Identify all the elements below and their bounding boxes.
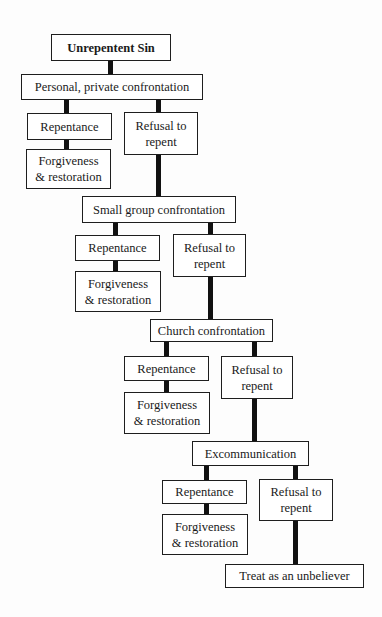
church-discipline-flowchart: Unrepentent Sin Personal, private confro…: [0, 0, 382, 617]
node-repentance-3: Repentance: [124, 356, 209, 381]
connector-step1-repentance: [64, 99, 69, 113]
connector-root-step1: [108, 60, 113, 74]
node-refusal-4: Refusal to repent: [259, 479, 333, 521]
node-treat-as-unbeliever: Treat as an unbeliever: [225, 564, 364, 588]
node-repentance-1: Repentance: [27, 113, 112, 140]
forgiveness-2-line2: & restoration: [85, 292, 151, 308]
connector-refusal2-step3: [208, 276, 213, 319]
connector-step3-repentance: [164, 341, 169, 356]
node-forgiveness-2: Forgiveness & restoration: [75, 271, 161, 312]
node-refusal-2: Refusal to repent: [173, 234, 246, 277]
connector-repentance2-outcome: [113, 260, 118, 271]
refusal-2-line2: repent: [194, 256, 225, 272]
node-forgiveness-1: Forgiveness & restoration: [26, 149, 111, 189]
refusal-3-line2: repent: [241, 378, 272, 394]
refusal-2-line1: Refusal to: [184, 240, 235, 256]
connector-step4-repentance: [204, 465, 209, 480]
connector-repentance1-outcome: [64, 139, 69, 149]
node-forgiveness-4: Forgiveness & restoration: [162, 514, 248, 555]
node-church-confrontation: Church confrontation: [150, 319, 273, 342]
connector-repentance4-outcome: [204, 503, 209, 514]
node-repentance-2: Repentance: [75, 235, 160, 261]
forgiveness-2-line1: Forgiveness: [88, 276, 148, 292]
connector-refusal4-final: [293, 520, 298, 564]
refusal-3-line1: Refusal to: [231, 362, 282, 378]
connector-step2-refusal: [208, 222, 213, 234]
forgiveness-1-line2: & restoration: [35, 169, 101, 185]
node-personal-confrontation: Personal, private confrontation: [21, 74, 203, 100]
refusal-1-line1: Refusal to: [135, 118, 186, 134]
connector-refusal3-step4: [252, 398, 257, 441]
node-forgiveness-3: Forgiveness & restoration: [124, 392, 210, 434]
connector-step2-repentance: [113, 222, 118, 235]
connector-repentance3-outcome: [164, 380, 169, 392]
connector-refusal1-step2: [156, 154, 161, 196]
node-unrepentent-sin: Unrepentent Sin: [51, 34, 171, 61]
forgiveness-4-line2: & restoration: [172, 535, 238, 551]
refusal-4-line2: repent: [280, 500, 311, 516]
forgiveness-3-line1: Forgiveness: [137, 397, 197, 413]
refusal-4-line1: Refusal to: [270, 484, 321, 500]
connector-step3-refusal: [252, 341, 257, 356]
refusal-1-line2: repent: [145, 134, 176, 150]
node-repentance-4: Repentance: [162, 480, 247, 504]
node-refusal-1: Refusal to repent: [124, 112, 198, 155]
node-refusal-3: Refusal to repent: [221, 356, 293, 399]
node-excommunication: Excommunication: [192, 441, 309, 466]
connector-step1-refusal: [156, 99, 161, 112]
forgiveness-4-line1: Forgiveness: [175, 519, 235, 535]
node-small-group-confrontation: Small group confrontation: [82, 196, 236, 223]
forgiveness-1-line1: Forgiveness: [38, 153, 98, 169]
forgiveness-3-line2: & restoration: [134, 413, 200, 429]
connector-step4-refusal: [293, 465, 298, 479]
